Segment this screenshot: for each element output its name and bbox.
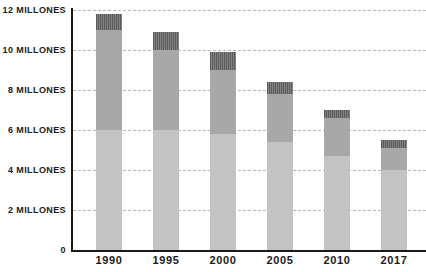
bar-segment-bottom [153, 130, 179, 250]
bar-1990 [96, 14, 122, 250]
gridline-6m [73, 130, 426, 131]
bar-segment-top [210, 52, 236, 70]
y-tick-label-8m: 8 MILLONES [8, 85, 66, 95]
y-tick-label-6m: 6 MILLONES [8, 125, 66, 135]
bar-segment-middle [96, 30, 122, 130]
bar-segment-bottom [324, 156, 350, 250]
x-tick-label-2005: 2005 [254, 254, 306, 266]
x-tick-label-2000: 2000 [197, 254, 249, 266]
y-axis-line [71, 8, 73, 252]
gridline-2m [73, 210, 426, 211]
y-tick-label-0: 0 [61, 245, 66, 255]
y-tick-label-10m: 10 MILLONES [3, 45, 66, 55]
bar-segment-top [153, 32, 179, 50]
bar-segment-top [381, 140, 407, 148]
x-axis-line [71, 250, 426, 252]
x-tick-label-2017: 2017 [368, 254, 420, 266]
bar-segment-middle [324, 118, 350, 156]
bar-segment-bottom [210, 134, 236, 250]
bar-segment-bottom [96, 130, 122, 250]
x-tick-label-1995: 1995 [140, 254, 192, 266]
bar-2010 [324, 110, 350, 250]
bar-segment-middle [381, 148, 407, 170]
bar-segment-bottom [267, 142, 293, 250]
bar-2017 [381, 140, 407, 250]
bar-2000 [210, 52, 236, 250]
bar-1995 [153, 32, 179, 250]
gridline-4m [73, 170, 426, 171]
y-tick-label-2m: 2 MILLONES [8, 205, 66, 215]
bar-segment-top [324, 110, 350, 118]
y-axis-labels: 12 MILLONES 10 MILLONES 8 MILLONES 6 MIL… [0, 0, 66, 272]
bar-2005 [267, 82, 293, 250]
gridline-10m [73, 50, 426, 51]
gridline-12m [73, 10, 426, 11]
bar-segment-bottom [381, 170, 407, 250]
x-tick-label-1990: 1990 [83, 254, 135, 266]
bar-segment-middle [153, 50, 179, 130]
bar-segment-top [267, 82, 293, 94]
bar-segment-middle [267, 94, 293, 142]
y-tick-label-12m: 12 MILLONES [3, 5, 66, 15]
gridline-8m [73, 90, 426, 91]
bar-segment-middle [210, 70, 236, 134]
plot-area: 1990 1995 2000 2005 2010 2017 [71, 0, 426, 272]
y-tick-label-4m: 4 MILLONES [8, 165, 66, 175]
bar-segment-top [96, 14, 122, 30]
bar-chart: 12 MILLONES 10 MILLONES 8 MILLONES 6 MIL… [0, 0, 426, 272]
x-tick-label-2010: 2010 [311, 254, 363, 266]
